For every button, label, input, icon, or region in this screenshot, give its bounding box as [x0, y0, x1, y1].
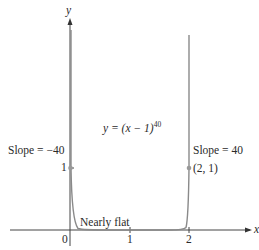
point-2-1: [187, 166, 192, 171]
slope-left-annotation: Slope = −40: [8, 145, 64, 157]
curve-right-branch: [170, 35, 189, 230]
nearly-flat-annotation: Nearly flat: [80, 217, 130, 229]
y-axis-label: y: [66, 5, 71, 17]
x-tick-label-2: 2: [186, 234, 192, 246]
y-tick-label-1: 1: [61, 162, 67, 174]
x-tick-label-1: 1: [127, 234, 133, 246]
x-tick-label-0: 0: [62, 234, 68, 246]
x-axis-arrow-icon: [245, 228, 252, 233]
point-2-1-label: (2, 1): [193, 163, 218, 175]
x-axis-label: x: [254, 224, 259, 236]
equation-lhs: y = (x − 1): [103, 122, 154, 134]
y-axis-arrow-icon: [68, 18, 73, 25]
function-equation: y = (x − 1)40: [103, 121, 161, 135]
equation-exponent: 40: [154, 120, 162, 129]
slope-right-annotation: Slope = 40: [193, 145, 243, 157]
point-0-1: [68, 166, 73, 171]
